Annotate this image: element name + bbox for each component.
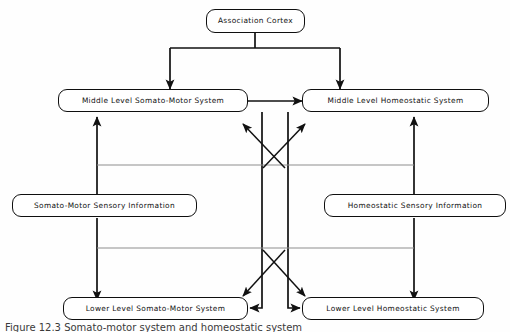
figure-caption: Figure 12.3 Somato-motor system and home… <box>5 322 505 332</box>
edge-cross-down-left <box>243 250 285 296</box>
node-middle-somato-motor-label: Middle Level Somato-Motor System <box>82 97 224 104</box>
node-middle-homeostatic-label: Middle Level Homeostatic System <box>327 97 463 104</box>
node-somato-motor-sensory[interactable]: Somato-Motor Sensory Information <box>12 194 197 217</box>
node-lower-somato-motor-label: Lower Level Somato-Motor System <box>86 305 226 312</box>
edge-cross-down-right <box>263 250 305 296</box>
figure-root: Association Cortex Middle Level Somato-M… <box>0 0 510 332</box>
diagram-connectors <box>0 0 510 332</box>
node-middle-homeostatic[interactable]: Middle Level Homeostatic System <box>302 89 489 112</box>
node-homeostatic-sensory[interactable]: Homeostatic Sensory Information <box>324 194 506 217</box>
node-homeostatic-sensory-label: Homeostatic Sensory Information <box>348 202 483 209</box>
edge-cross-up-right <box>263 124 305 168</box>
edge-cross-up-left <box>243 124 285 168</box>
node-middle-somato-motor[interactable]: Middle Level Somato-Motor System <box>58 89 248 112</box>
node-association-cortex[interactable]: Association Cortex <box>206 9 305 33</box>
node-association-cortex-label: Association Cortex <box>218 17 293 24</box>
node-somato-motor-sensory-label: Somato-Motor Sensory Information <box>34 202 175 209</box>
node-lower-somato-motor[interactable]: Lower Level Somato-Motor System <box>63 297 248 320</box>
node-lower-homeostatic-label: Lower Level Homeostatic System <box>326 305 459 312</box>
node-lower-homeostatic[interactable]: Lower Level Homeostatic System <box>302 297 484 320</box>
